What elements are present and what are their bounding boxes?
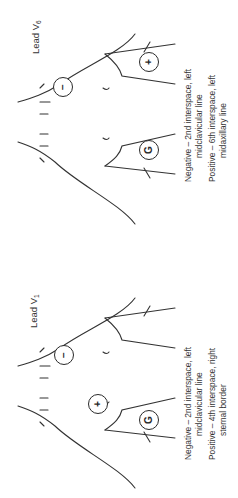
panel-lead-v1: Lead V1 − + G Negative – 2nd interspace,… bbox=[0, 249, 238, 498]
negative-placement-v6: Negative – 2nd interspace, left bbox=[183, 69, 194, 182]
positive-placement-v1: Positive – 4th interspace, right bbox=[207, 347, 218, 460]
lead-title-v1: Lead V1 bbox=[28, 294, 40, 328]
ground-icon: G bbox=[144, 146, 154, 154]
positive-placement-v6: Positive – 6th interspace, left bbox=[207, 69, 218, 182]
positive-electrode-v6: + bbox=[139, 52, 159, 72]
ecg-lead-placement-figure: Lead V1 − + G Negative – 2nd interspace,… bbox=[0, 0, 238, 498]
lead-title-v6: Lead V6 bbox=[30, 20, 42, 54]
minus-icon: − bbox=[58, 84, 68, 90]
negative-electrode-v1: − bbox=[54, 345, 74, 365]
caption-v1: Negative – 2nd interspace, left midclavi… bbox=[183, 347, 228, 460]
panel-lead-v6: Lead V6 − + G Negative – 2nd interspace,… bbox=[0, 0, 238, 230]
ground-icon: G bbox=[144, 416, 154, 424]
negative-electrode-v6: − bbox=[53, 77, 73, 97]
positive-electrode-v1: + bbox=[88, 394, 108, 414]
ground-electrode-v1: G bbox=[139, 410, 159, 430]
plus-icon: + bbox=[144, 59, 154, 65]
caption-v6: Negative – 2nd interspace, left midclavi… bbox=[183, 69, 228, 182]
negative-placement-v1: Negative – 2nd interspace, left bbox=[183, 347, 194, 460]
minus-icon: − bbox=[59, 352, 69, 358]
ground-electrode-v6: G bbox=[139, 140, 159, 160]
plus-icon: + bbox=[93, 401, 103, 407]
